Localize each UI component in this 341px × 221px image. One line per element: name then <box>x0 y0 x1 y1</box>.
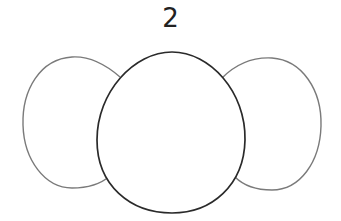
egg-shapes-diagram <box>0 0 341 221</box>
